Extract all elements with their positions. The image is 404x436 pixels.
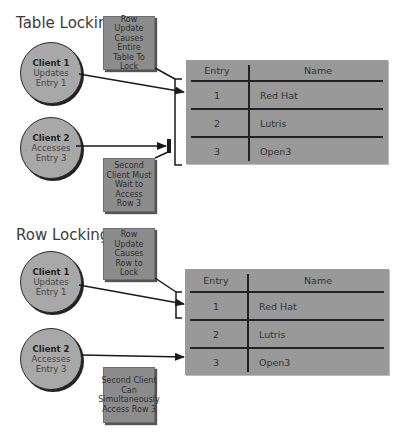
arrow-client2-to-row3: [81, 355, 184, 357]
note-pointer-top-2: [155, 278, 176, 292]
connector-lines: [0, 0, 404, 436]
arrow-client1-to-row1: [79, 74, 184, 92]
arrow-client1-to-row1: [79, 285, 184, 304]
note-pointer-bottom-1: [155, 152, 168, 158]
note-pointer-top-1: [155, 68, 175, 79]
block-bar-icon: [167, 139, 171, 153]
row-lock-bracket: [176, 292, 182, 318]
